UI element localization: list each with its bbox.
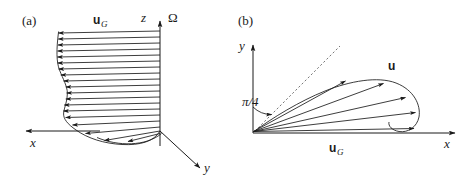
panel-b-ug-subscript: G [337, 147, 344, 157]
panel-b-y-axis-label: y [237, 38, 245, 53]
figure-root: (a) z Ω x y u G [0, 0, 472, 189]
panel-a-spiral-envelope [57, 32, 160, 145]
panel-a-y-axis [160, 131, 200, 168]
panel-b-velocity-vectors [254, 81, 416, 132]
panel-a-omega-label: Ω [168, 10, 178, 25]
panel-b-label: (b) [238, 13, 253, 28]
panel-b: (b) y x π/4 u u G [237, 13, 455, 157]
panel-a-ug-subscript: G [101, 19, 108, 29]
panel-a-velocity-arrows [57, 31, 160, 134]
panel-a-label: (a) [22, 13, 36, 28]
panel-b-x-axis-label: x [443, 136, 450, 151]
panel-a-geostrophic-label: u G [93, 13, 108, 29]
ekman-figure: (a) z Ω x y u G [0, 0, 472, 189]
panel-b-angle-label: π/4 [242, 94, 259, 109]
panel-a-y-axis-label: y [202, 160, 210, 175]
panel-a: (a) z Ω x y u G [22, 10, 210, 175]
panel-a-x-axis-label: x [29, 135, 36, 150]
panel-a-ug-symbol: u [93, 13, 100, 27]
panel-a-z-axis-label: z [140, 10, 146, 25]
panel-b-velocity-label: u [388, 59, 395, 73]
panel-b-geostrophic-label: u G [329, 141, 344, 157]
panel-b-asymptote [255, 46, 340, 131]
panel-b-ug-symbol: u [329, 141, 336, 155]
panel-b-hodograph-curve [254, 80, 419, 132]
